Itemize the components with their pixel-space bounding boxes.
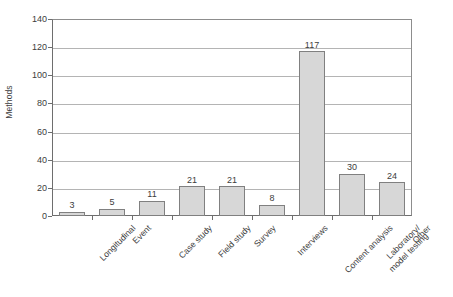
x-axis-category-label-line: Case study	[177, 223, 215, 261]
x-axis-category-label: Survey	[252, 223, 278, 249]
x-axis-category-label-line: Survey	[252, 223, 278, 249]
x-axis-category-label-line: Field study	[216, 223, 253, 260]
x-axis-category-label: Field study	[216, 223, 253, 260]
x-axis-category-label: Longitudinal	[98, 223, 138, 263]
x-axis-category-label-line: Interviews	[295, 223, 330, 258]
bar-chart: Methods 020406080100120140 3511212181173…	[0, 0, 453, 297]
x-axis-labels: LongitudinalEventCase studyField studySu…	[0, 0, 453, 297]
x-axis-category-label: Case study	[177, 223, 215, 261]
x-axis-category-label-line: Longitudinal	[98, 223, 138, 263]
x-axis-category-label: Interviews	[295, 223, 330, 258]
